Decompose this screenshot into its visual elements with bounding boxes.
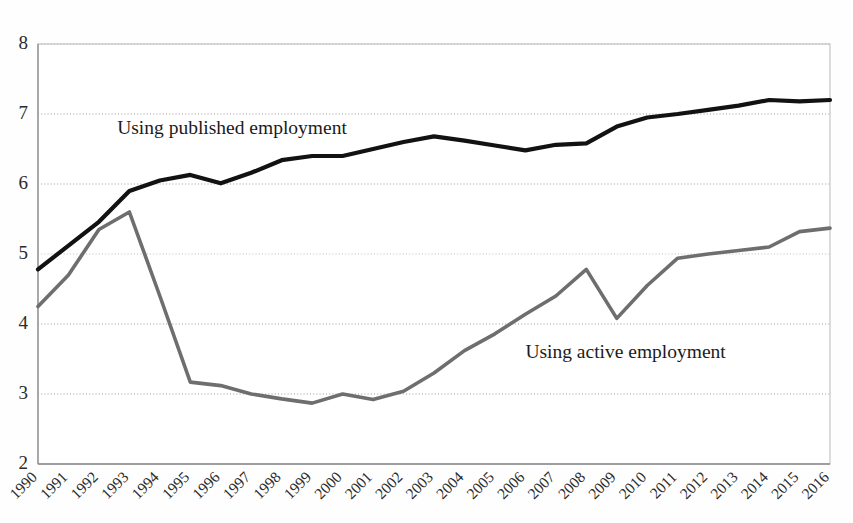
x-tick-label-1998: 1998 — [250, 468, 284, 502]
x-tick-label-2001: 2001 — [341, 468, 375, 502]
chart-container: 2345678 19901991199219931994199519961997… — [0, 0, 853, 523]
x-tick-label-2010: 2010 — [615, 468, 649, 502]
x-tick-label-2002: 2002 — [372, 468, 406, 502]
x-tick-label-2003: 2003 — [402, 468, 436, 502]
x-tick-label-2000: 2000 — [311, 468, 345, 502]
employment-line-chart: 2345678 19901991199219931994199519961997… — [0, 0, 853, 523]
x-tick-label-2007: 2007 — [524, 468, 558, 502]
x-tick-label-2013: 2013 — [707, 468, 741, 502]
x-tick-label-2016: 2016 — [798, 468, 832, 502]
y-tick-label-4: 4 — [19, 312, 29, 333]
x-tick-label-1990: 1990 — [6, 468, 40, 502]
x-tick-label-2012: 2012 — [676, 468, 710, 502]
x-tick-label-2014: 2014 — [737, 468, 771, 502]
x-tick-label-2006: 2006 — [494, 468, 528, 502]
x-tick-label-1991: 1991 — [37, 468, 71, 502]
x-tick-label-1992: 1992 — [67, 468, 101, 502]
y-tick-label-6: 6 — [19, 172, 29, 193]
x-tick-label-1999: 1999 — [280, 468, 314, 502]
x-tick-label-1995: 1995 — [158, 468, 192, 502]
x-tick-label-2005: 2005 — [463, 468, 497, 502]
series-annotation-active-employment: Using active employment — [525, 341, 726, 362]
y-axis-tick-labels: 2345678 — [19, 32, 29, 473]
x-axis-tick-labels: 1990199119921993199419951996199719981999… — [6, 468, 832, 502]
x-tick-label-2009: 2009 — [585, 468, 619, 502]
series-annotation-published-employment: Using published employment — [117, 117, 347, 138]
y-tick-label-7: 7 — [19, 102, 29, 123]
y-tick-label-5: 5 — [19, 242, 29, 263]
x-tick-label-1997: 1997 — [219, 468, 253, 502]
x-tick-label-2008: 2008 — [554, 468, 588, 502]
x-tick-label-2004: 2004 — [433, 468, 467, 502]
x-tick-label-1994: 1994 — [128, 468, 162, 502]
x-tick-label-2011: 2011 — [646, 468, 680, 502]
x-tick-label-2015: 2015 — [768, 468, 802, 502]
y-tick-label-3: 3 — [19, 382, 29, 403]
x-tick-label-1996: 1996 — [189, 468, 223, 502]
x-tick-label-1993: 1993 — [98, 468, 132, 502]
y-tick-label-8: 8 — [19, 32, 29, 53]
